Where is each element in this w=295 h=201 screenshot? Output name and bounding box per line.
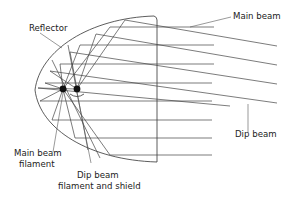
- reflector-leader: [40, 33, 62, 48]
- main-beam-filament-label-line2: filament: [19, 159, 55, 169]
- dip-ray: [70, 52, 277, 84]
- dip-beam-filament-label-line2: filament and shield: [58, 181, 141, 191]
- filament-ray: [63, 89, 75, 138]
- main-beam-leader: [190, 17, 231, 27]
- dip-filament-leader: [77, 93, 91, 163]
- main-filament-leader: [53, 93, 63, 152]
- main-beam-label: Main beam: [233, 11, 281, 21]
- dip-ray: [50, 71, 277, 103]
- reflector-label: Reflector: [29, 23, 68, 33]
- main-beam-filament: [60, 86, 67, 93]
- filament-ray: [70, 52, 77, 89]
- filament-ray: [77, 34, 96, 89]
- dip-beam-filament-label-line1: Dip beam: [77, 170, 119, 180]
- lens-edge: [154, 16, 157, 162]
- main-beam-filament-label-line1: Main beam: [14, 148, 62, 158]
- dip-beam-filament: [74, 86, 81, 93]
- dip-ray: [125, 20, 277, 46]
- headlamp-diagram: Reflector Main beam Dip beam Main beam f…: [0, 0, 295, 201]
- filament-ray: [63, 45, 80, 89]
- reflector-outline: [35, 16, 157, 162]
- dip-beam-rays: [38, 20, 277, 106]
- filament-ray: [63, 27, 110, 89]
- dip-beam-label: Dip beam: [235, 129, 277, 139]
- filament-ray: [63, 89, 110, 155]
